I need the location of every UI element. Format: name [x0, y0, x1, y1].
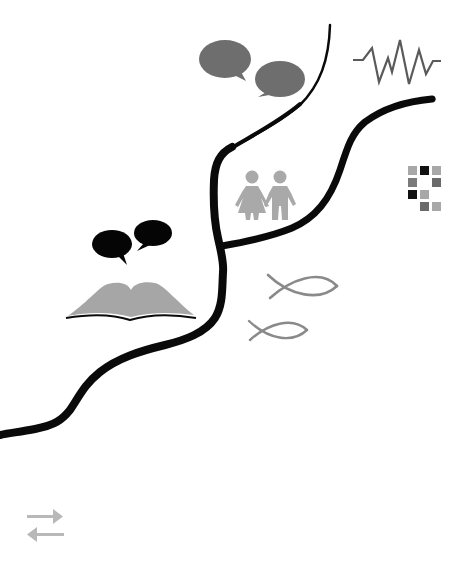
- fish-symbol-small-icon: [249, 321, 307, 340]
- zigzag-waveform-icon: [353, 40, 441, 84]
- speech-bubbles-black-icon: [92, 220, 172, 265]
- open-book-icon: [66, 282, 196, 320]
- pixel-grid-icon: [408, 166, 441, 211]
- speech-bubbles-gray-icon: [199, 40, 305, 97]
- fish-symbol-large-icon: [268, 275, 337, 298]
- branching-path: [0, 25, 434, 435]
- couple-holding-hands-icon: [235, 171, 296, 221]
- river-path-illustration: [0, 0, 469, 567]
- swap-arrows-icon: [27, 509, 64, 542]
